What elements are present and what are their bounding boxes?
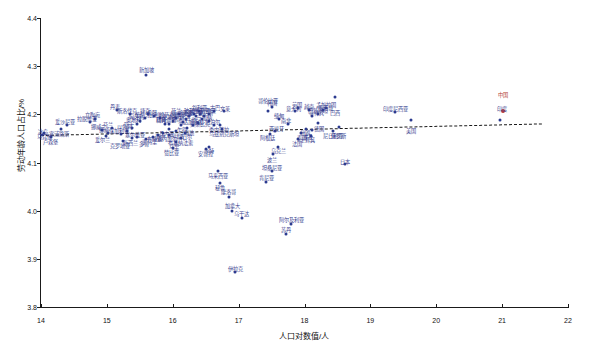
y-axis-tick <box>37 211 41 212</box>
data-point[interactable] <box>168 122 171 125</box>
scatter-chart: 劳动年龄人口占比/% 人口对数值/人 1415161718192021223.8… <box>0 0 612 347</box>
data-point[interactable] <box>234 271 237 274</box>
data-point-label: 拉脱维亚 <box>77 115 97 122</box>
data-point-label: 新加坡 <box>139 66 154 73</box>
data-point-label: 伊拉克 <box>228 264 243 271</box>
data-point-label: 委内瑞拉 <box>209 125 229 132</box>
data-point-label: 冰岛 <box>38 127 48 134</box>
data-point-label: 缅甸 <box>274 112 284 119</box>
data-point-label: 乌干达 <box>234 210 249 217</box>
data-point[interactable] <box>240 216 243 219</box>
data-point[interactable] <box>231 209 234 212</box>
x-axis-tick <box>41 304 42 308</box>
y-axis-tick <box>37 259 41 260</box>
x-axis-tick-label: 18 <box>301 317 309 324</box>
data-point-label: 菲律宾 <box>309 109 324 116</box>
data-point-label: 爱尔兰 <box>95 136 110 143</box>
data-point[interactable] <box>311 128 314 131</box>
data-point-label: 爱沙尼亚 <box>55 118 75 125</box>
data-point-label: 印度 <box>497 105 507 112</box>
y-axis-tick-label: 4.2 <box>19 111 37 118</box>
data-point-label: 安哥拉 <box>198 149 213 156</box>
x-axis-tick-label: 22 <box>564 317 572 324</box>
data-point[interactable] <box>270 106 273 109</box>
y-axis-tick-label: 4.4 <box>19 15 37 22</box>
x-axis-tick <box>568 304 569 308</box>
data-point-label: 日本 <box>340 157 350 164</box>
x-axis-title: 人口对数值/人 <box>40 330 568 341</box>
y-axis-tick <box>37 18 41 19</box>
data-point[interactable] <box>499 118 502 121</box>
x-axis-tick-label: 19 <box>366 317 374 324</box>
x-axis-tick-label: 21 <box>498 317 506 324</box>
x-axis-tick <box>305 304 306 308</box>
data-point[interactable] <box>265 180 268 183</box>
data-point-label: 中国 <box>498 90 508 97</box>
y-axis-tick-label: 3.9 <box>19 255 37 262</box>
x-axis-tick-label: 20 <box>432 317 440 324</box>
data-point[interactable] <box>334 95 337 98</box>
data-point[interactable] <box>135 122 138 125</box>
data-point[interactable] <box>285 232 288 235</box>
data-point-label: 加拿大 <box>225 201 240 208</box>
x-axis-tick-label: 16 <box>169 317 177 324</box>
data-point[interactable] <box>267 109 270 112</box>
data-point-label: 印度尼西亚 <box>383 105 408 112</box>
data-point[interactable] <box>410 119 413 122</box>
data-point-label: 塞尔维亚 <box>125 130 145 137</box>
data-point-label: 肯尼亚 <box>259 173 274 180</box>
y-axis-tick-label: 4.3 <box>19 63 37 70</box>
x-axis-tick-label: 17 <box>235 317 243 324</box>
data-point-label: 塞浦路斯 <box>49 129 69 136</box>
y-axis-tick-label: 4.0 <box>19 207 37 214</box>
y-axis-tick <box>37 114 41 115</box>
data-point-label: 多哥 <box>139 140 149 147</box>
data-point[interactable] <box>163 122 166 125</box>
y-axis-tick-label: 4.1 <box>19 159 37 166</box>
data-point-label: 斯洛伐克 <box>117 107 137 114</box>
y-axis-title: 劳动年龄人口占比/% <box>15 76 26 196</box>
x-axis-tick-label: 14 <box>37 317 45 324</box>
data-point-label: 越南 <box>304 102 314 109</box>
data-point-label: 挪威二 <box>91 122 106 129</box>
x-axis-tick <box>436 304 437 308</box>
data-point[interactable] <box>227 196 230 199</box>
data-point[interactable] <box>192 113 195 116</box>
data-point[interactable] <box>145 73 148 76</box>
data-point-label: 克罗地亚 <box>110 141 130 148</box>
data-point-label: 阿根廷 <box>260 134 275 141</box>
plot-area: 1415161718192021223.83.94.04.14.24.34.4中… <box>40 18 568 308</box>
data-point-label: 法国 <box>292 140 302 147</box>
x-axis-tick <box>173 304 174 308</box>
data-point-label: 波兰 <box>267 155 277 162</box>
y-axis-tick <box>37 163 41 164</box>
data-point-label: 苏丹 <box>281 225 291 232</box>
data-point-label: 意大利 <box>286 104 301 111</box>
x-axis-tick <box>107 304 108 308</box>
data-point-label: 美国 <box>406 126 416 133</box>
x-axis-tick <box>502 304 503 308</box>
data-point-label: 哥伦比亚 <box>258 96 278 103</box>
x-axis-tick <box>370 304 371 308</box>
data-point[interactable] <box>337 126 340 129</box>
data-point-label: 尼日利亚 <box>323 131 343 138</box>
data-point-label: 德国 <box>314 124 324 131</box>
x-axis-tick-label: 15 <box>103 317 111 324</box>
y-axis-tick <box>37 307 41 308</box>
x-axis-tick <box>239 304 240 308</box>
data-point-label: 坦桑尼亚 <box>262 164 282 171</box>
y-axis-tick-label: 3.8 <box>19 304 37 311</box>
data-point-label: 文莱 <box>220 104 230 111</box>
data-point-label: 玻利维亚 <box>184 106 204 113</box>
y-axis-tick <box>37 66 41 67</box>
data-point-label: 秘鲁 <box>215 183 225 190</box>
data-point-label: 阿尔及利亚 <box>279 216 304 223</box>
data-point-label: 马来西亚 <box>208 172 228 179</box>
data-point-label: 赞比亚 <box>164 148 179 155</box>
data-point-label: 西班牙 <box>269 124 284 131</box>
